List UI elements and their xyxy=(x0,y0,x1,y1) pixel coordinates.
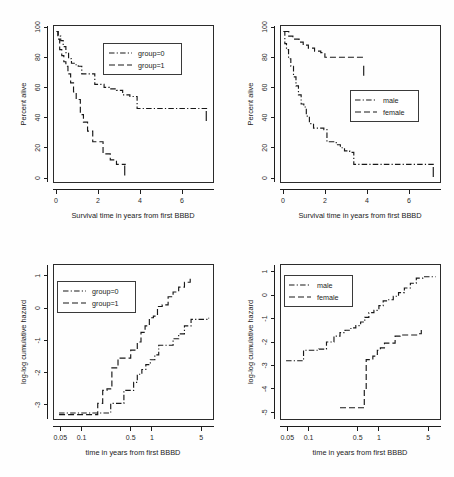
curve-group-0 xyxy=(59,318,209,413)
y-axis-br: -5-4-3-2-101 log-log cumulative hazard xyxy=(246,265,275,419)
y-axis-title: log-log cumulative hazard xyxy=(246,300,255,384)
x-tick-label: 0.1 xyxy=(304,434,314,441)
y-tick-label: 1 xyxy=(34,274,41,278)
y-tick-label: -5 xyxy=(261,409,268,415)
legend-label: group=1 xyxy=(92,299,119,308)
y-tick-label: 60 xyxy=(34,83,41,91)
legend-label: group=0 xyxy=(138,49,165,58)
y-tick-label: -2 xyxy=(261,339,268,345)
x-tick-label: 0 xyxy=(281,197,285,204)
curve-female xyxy=(284,32,365,58)
y-tick-label: 60 xyxy=(261,83,268,91)
legend-label: group=1 xyxy=(138,61,165,70)
y-tick-label: 80 xyxy=(34,53,41,61)
y-axis-title: Percent alive xyxy=(19,83,28,126)
x-tick-label: 6 xyxy=(407,197,411,204)
y-tick-label: -1 xyxy=(261,315,268,321)
x-tick-labels: 0.050.10.515 xyxy=(54,434,204,441)
legend-tr[interactable]: male female xyxy=(350,90,418,121)
legend-label: female xyxy=(383,108,405,117)
x-axis-title: time in years from first BBBD xyxy=(313,448,408,457)
x-axis-bl: 0.050.10.515 time in years from first BB… xyxy=(53,427,214,458)
y-tick-label: 0 xyxy=(261,176,268,180)
x-tick-label: 6 xyxy=(180,197,184,204)
y-tick-label: 20 xyxy=(261,144,268,152)
x-tick-label: 0.1 xyxy=(77,434,87,441)
y-tick-label: -2 xyxy=(34,369,41,375)
x-tick-label: 0.05 xyxy=(54,434,68,441)
y-tick-marks xyxy=(271,272,275,413)
x-tick-label: 4 xyxy=(138,197,142,204)
legend-label: male xyxy=(317,281,333,290)
y-tick-label: 40 xyxy=(34,114,41,122)
x-tick-label: 2 xyxy=(323,197,327,204)
y-tick-label: 0 xyxy=(34,176,41,180)
y-tick-label: -3 xyxy=(34,402,41,408)
y-tick-label: 80 xyxy=(261,53,268,61)
y-tick-label: 0 xyxy=(261,293,268,297)
x-axis-br: 0.050.10.515 time in years from first BB… xyxy=(280,427,441,458)
y-axis-tr: 0 20 40 60 80 100 Percent alive xyxy=(246,21,275,182)
y-tick-labels: -3-2-101 xyxy=(34,274,41,408)
x-tick-label: 5 xyxy=(426,434,430,441)
x-tick-label: 4 xyxy=(365,197,369,204)
figure-container: 0 2 4 6 Survival time in years from firs… xyxy=(0,0,454,477)
y-axis-title: Percent alive xyxy=(246,83,255,126)
y-tick-label: 1 xyxy=(261,269,268,273)
x-axis-title: Survival time in years from first BBBD xyxy=(298,211,421,220)
legend-br[interactable]: male female xyxy=(284,275,352,306)
x-tick-label: 0.05 xyxy=(281,434,295,441)
y-tick-label: 40 xyxy=(261,114,268,122)
x-axis-title: Survival time in years from first BBBD xyxy=(71,211,194,220)
y-axis-title: log-log cumulative hazard xyxy=(19,300,28,384)
panel-top-right: 0 2 4 6 Survival time in years from firs… xyxy=(227,0,454,238)
x-tick-label: 2 xyxy=(96,197,100,204)
x-tick-label: 1 xyxy=(150,434,154,441)
x-axis-tr: 0 2 4 6 Survival time in years from firs… xyxy=(280,190,441,221)
panel-top-right-svg: 0 2 4 6 Survival time in years from firs… xyxy=(227,0,454,238)
x-tick-label: 5 xyxy=(199,434,203,441)
y-tick-label: 100 xyxy=(34,21,41,33)
x-tick-label: 0.5 xyxy=(126,434,136,441)
y-axis-bl: -3-2-101 log-log cumulative hazard xyxy=(19,265,48,419)
y-tick-label: 100 xyxy=(261,21,268,33)
panel-bottom-right: 0.050.10.515 time in years from first BB… xyxy=(227,239,454,477)
curve-female xyxy=(340,328,421,408)
legend-label: male xyxy=(383,96,399,105)
legend-label: female xyxy=(317,293,339,302)
panel-top-left: 0 2 4 6 Survival time in years from firs… xyxy=(0,0,227,238)
y-tick-label: 0 xyxy=(34,306,41,310)
y-tick-label: -4 xyxy=(261,386,268,392)
panel-bottom-left: 0.050.10.515 time in years from first BB… xyxy=(0,239,227,477)
legend-bl[interactable]: group=0 group=1 xyxy=(57,281,135,312)
y-axis-tl: 0 20 40 60 80 100 Percent alive xyxy=(19,21,48,182)
x-tick-label: 0 xyxy=(54,197,58,204)
y-tick-label: 20 xyxy=(34,144,41,152)
x-axis-tl: 0 2 4 6 Survival time in years from firs… xyxy=(53,190,214,221)
legend-label: group=0 xyxy=(92,287,119,296)
panel-bottom-right-svg: 0.050.10.515 time in years from first BB… xyxy=(227,239,454,477)
y-tick-labels: -5-4-3-2-101 xyxy=(261,269,268,415)
legend-tl[interactable]: group=0 group=1 xyxy=(103,43,181,74)
y-tick-label: -3 xyxy=(261,362,268,368)
x-tick-marks xyxy=(287,427,428,431)
x-axis-title: time in years from first BBBD xyxy=(86,448,181,457)
x-tick-label: 1 xyxy=(377,434,381,441)
x-tick-labels: 0.050.10.515 xyxy=(281,434,431,441)
panel-bottom-left-svg: 0.050.10.515 time in years from first BB… xyxy=(0,239,227,477)
x-tick-label: 0.5 xyxy=(353,434,363,441)
y-tick-marks xyxy=(44,276,48,405)
panel-top-left-svg: 0 2 4 6 Survival time in years from firs… xyxy=(0,0,227,238)
y-tick-label: -1 xyxy=(34,337,41,343)
x-tick-marks xyxy=(60,427,201,431)
